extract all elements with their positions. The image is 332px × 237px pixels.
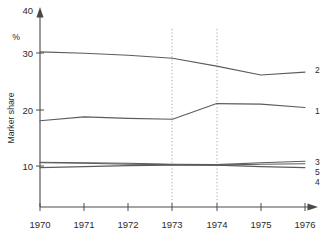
series-line-1 xyxy=(40,104,305,121)
x-tick-label-1974: 1974 xyxy=(206,219,227,230)
y-tick-label-40: 40 xyxy=(22,5,33,16)
y-tick-label-20: 20 xyxy=(22,105,33,116)
series-label-3: 3 xyxy=(315,157,320,167)
x-tick-label-1976: 1976 xyxy=(294,219,315,230)
y-axis-arrow-icon xyxy=(36,7,43,18)
series-layer xyxy=(40,52,305,168)
chart-container: 40 30 20 10 Marker share % 1970 1971 197… xyxy=(0,0,332,237)
series-label-1: 1 xyxy=(315,106,320,116)
x-tick-label-1973: 1973 xyxy=(161,219,182,230)
series-end-labels: 2 1 3 5 4 xyxy=(315,65,320,187)
series-line-2 xyxy=(40,52,305,75)
y-axis: 40 30 20 10 Marker share % xyxy=(6,5,44,207)
series-label-5: 5 xyxy=(315,167,320,177)
y-tick-label-30: 30 xyxy=(22,48,33,59)
y-axis-title: Marker share xyxy=(6,92,16,143)
x-axis: 1970 1971 1972 1973 1974 1975 1976 xyxy=(29,203,318,230)
y-axis-unit-label: % xyxy=(12,32,20,42)
series-line-4 xyxy=(40,165,305,168)
x-tick-label-1971: 1971 xyxy=(73,219,94,230)
x-tick-label-1975: 1975 xyxy=(250,219,271,230)
series-label-4: 4 xyxy=(315,177,320,187)
series-label-2: 2 xyxy=(315,65,320,75)
x-tick-label-1970: 1970 xyxy=(29,219,50,230)
x-axis-arrow-icon xyxy=(308,203,319,210)
line-chart: 40 30 20 10 Marker share % 1970 1971 197… xyxy=(0,0,332,237)
y-tick-label-10: 10 xyxy=(22,161,33,172)
x-tick-label-1972: 1972 xyxy=(117,219,138,230)
